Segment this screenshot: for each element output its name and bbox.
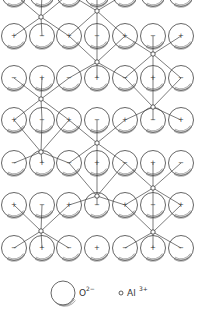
plus-sign: +: [178, 32, 184, 40]
crystal-structure-diagram: +−+−+−+−+−+−+−+−+−+−+−+−+−+−+−+−+−+−+−+−…: [0, 0, 198, 310]
minus-sign: −: [66, 244, 72, 252]
aluminum-ion: [95, 194, 99, 198]
legend-aluminum-label: Al: [127, 288, 136, 298]
aluminum-ion: [39, 15, 43, 19]
minus-sign: −: [178, 159, 184, 167]
aluminum-ion: [95, 60, 99, 64]
oxygen-ion-layers: +−+−+−+−+−+−+−+−+−+−+−+−+−+−+−+−+−+−+−+−…: [2, 0, 194, 261]
oxygen-ion: [169, 0, 194, 7]
aluminum-ion: [151, 230, 155, 234]
aluminum-ion: [151, 52, 155, 56]
legend-aluminum-charge: 3+: [139, 285, 148, 292]
oxygen-ion: [113, 0, 138, 7]
legend-aluminum-icon: [119, 291, 123, 295]
aluminum-ion: [39, 229, 43, 233]
plus-sign: +: [178, 116, 184, 124]
oxygen-ion: −: [2, 151, 27, 177]
oxygen-ion: +: [169, 24, 194, 50]
aluminum-ion: [39, 97, 43, 101]
plus-sign: +: [178, 201, 184, 209]
oxygen-ion: +: [85, 236, 110, 262]
aluminum-ion: [151, 105, 155, 109]
aluminum-ion: [95, 141, 99, 145]
oxygen-ion: +: [169, 108, 194, 134]
legend-oxygen-charge: 2−: [86, 285, 95, 292]
oxygen-ion: −: [169, 236, 194, 262]
oxygen-ion: [141, 0, 166, 7]
oxygen-ion: +: [30, 236, 55, 262]
oxygen-ion: −: [57, 66, 82, 92]
aluminum-ion: [39, 150, 43, 154]
aluminum-ion: [151, 186, 155, 190]
oxygen-ion: −: [2, 236, 27, 262]
oxygen-ion: −: [30, 24, 55, 50]
legend-oxygen-icon: [51, 281, 76, 306]
legend: O 2− Al 3+: [51, 281, 148, 306]
plus-sign: +: [94, 244, 100, 252]
minus-sign: −: [178, 244, 184, 252]
minus-sign: −: [178, 74, 184, 82]
oxygen-ion: +: [2, 24, 27, 50]
aluminum-ion: [95, 9, 99, 13]
oxygen-ion: −: [57, 236, 82, 262]
oxygen-ion: −: [113, 236, 138, 262]
